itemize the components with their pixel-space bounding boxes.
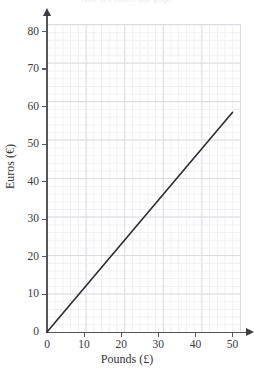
x-axis-title: Pounds (£) [0,353,254,366]
x-tick-label-20: 20 [106,338,136,350]
y-tick-label-0: 0 [11,326,39,338]
y-axis-title: Euros (€) [4,121,17,213]
y-axis-line [46,14,48,332]
y-tick-30 [42,219,47,220]
y-tick-label-60: 60 [11,101,39,113]
y-tick-label-20: 20 [11,251,39,263]
x-axis-arrowhead [246,328,254,336]
x-tick-30 [158,332,159,337]
x-tick-label-0: 0 [32,338,62,350]
x-tick-label-30: 30 [143,338,173,350]
y-tick-40 [42,181,47,182]
x-tick-label-50: 50 [218,338,248,350]
y-tick-50 [42,144,47,145]
x-tick-50 [232,332,233,337]
y-tick-20 [42,256,47,257]
y-tick-label-30: 30 [11,213,39,225]
x-axis-line [46,332,248,334]
y-tick-label-10: 10 [11,288,39,300]
y-tick-70 [42,68,47,69]
y-tick-label-70: 70 [11,63,39,75]
x-tick-10 [84,332,85,337]
y-axis-arrowhead [43,8,51,16]
x-tick-20 [121,332,122,337]
x-tick-label-10: 10 [69,338,99,350]
y-tick-label-80: 80 [11,26,39,38]
conversion-graph-figure: Here is a conversion graph 0102030405060… [0,0,254,370]
grid-border [47,24,241,332]
x-tick-40 [195,332,196,337]
x-tick-label-40: 40 [180,338,210,350]
y-tick-60 [42,106,47,107]
y-tick-80 [42,31,47,32]
y-tick-10 [42,294,47,295]
clipped-header-text: Here is a conversion graph [0,0,254,4]
plot-area [47,24,241,332]
